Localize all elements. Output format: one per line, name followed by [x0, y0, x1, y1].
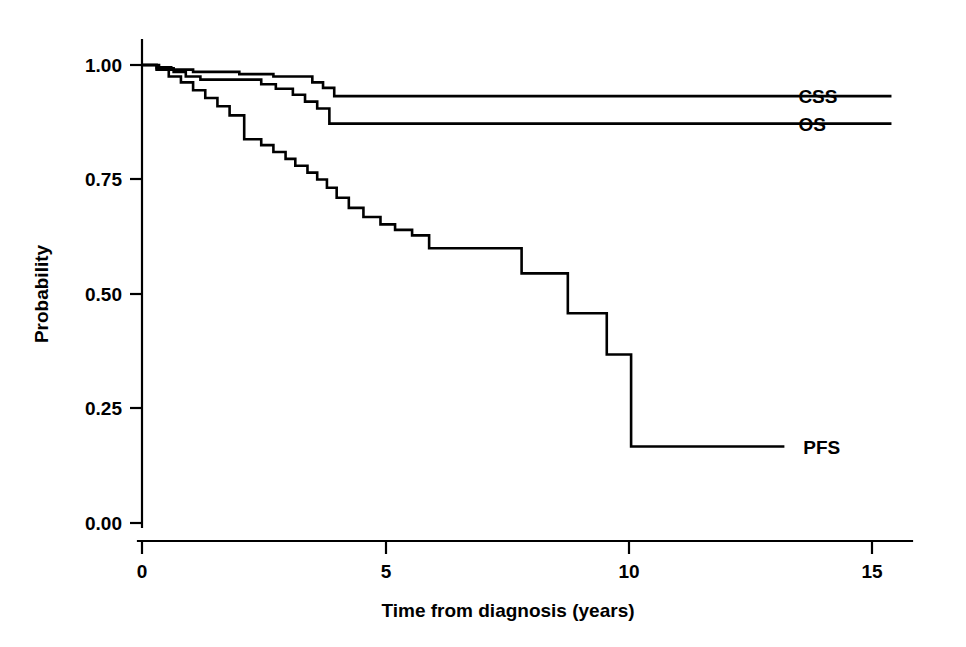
- x-tick-label-5: 5: [381, 561, 392, 582]
- y-tick-label-0.25: 0.25: [85, 398, 122, 419]
- y-tick-label-1.00: 1.00: [85, 55, 122, 76]
- km-figure: 1.00 0.75 0.50 0.25 0.00 0 5 10 15 Time …: [0, 0, 966, 647]
- y-tick-label-0.00: 0.00: [85, 513, 122, 534]
- x-tick-label-10: 10: [618, 561, 639, 582]
- curve-label-os: OS: [798, 114, 825, 135]
- y-tick-label-0.75: 0.75: [85, 169, 122, 190]
- y-tick-label-0.50: 0.50: [85, 284, 122, 305]
- y-axis-title: Probability: [31, 244, 52, 343]
- x-axis-title: Time from diagnosis (years): [381, 600, 634, 621]
- x-tick-label-0: 0: [137, 561, 148, 582]
- survival-curve-chart: 1.00 0.75 0.50 0.25 0.00 0 5 10 15 Time …: [0, 0, 966, 647]
- curve-label-css: CSS: [798, 86, 837, 107]
- curve-label-pfs: PFS: [803, 437, 840, 458]
- x-tick-label-15: 15: [861, 561, 883, 582]
